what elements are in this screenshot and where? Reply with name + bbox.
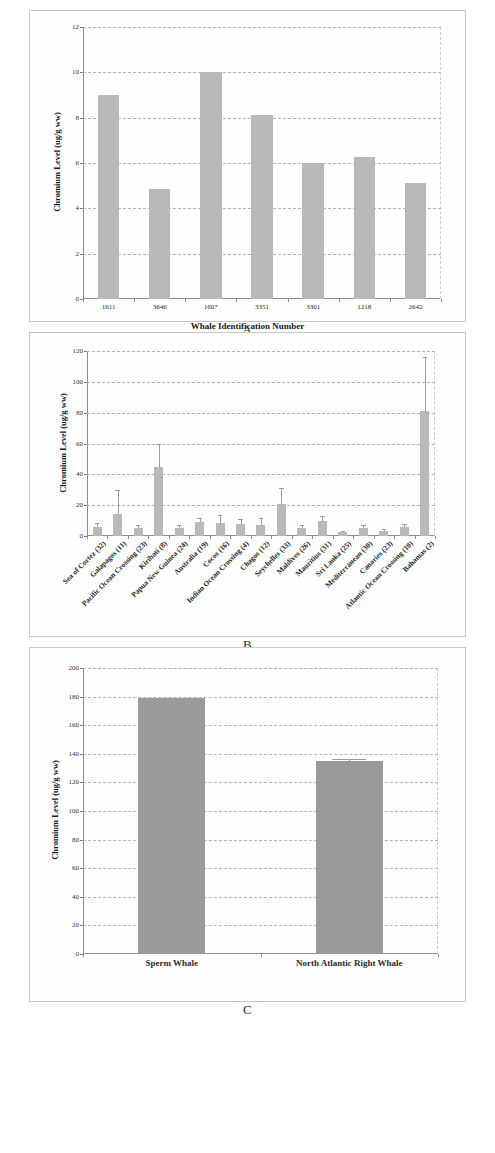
panel-c-gridline bbox=[83, 868, 438, 869]
panel-c-gridline bbox=[83, 782, 438, 783]
panel-b-x-tick-mark bbox=[148, 536, 149, 539]
figure-root: Chromium Level (ug/g ww) 024681012161136… bbox=[0, 0, 495, 1153]
chart-panel-b: Chromium Level (ug/g ww) 020406080100120… bbox=[29, 332, 466, 637]
panel-a-y-tick-mark bbox=[80, 254, 83, 255]
panel-b-y-tick-mark bbox=[84, 444, 87, 445]
panel-b-x-tick-mark bbox=[333, 536, 334, 539]
panel-b-x-tick-mark bbox=[128, 536, 129, 539]
panel-c-y-tick-mark bbox=[80, 668, 83, 669]
panel-a-x-axis-title: Whale Identification Number bbox=[30, 321, 465, 331]
panel-b-gridline bbox=[87, 351, 435, 352]
panel-b-x-tick-mark bbox=[210, 536, 211, 539]
error-bar bbox=[425, 357, 426, 411]
panel-a-x-tick-label: 1611 bbox=[102, 303, 116, 311]
error-bar bbox=[261, 518, 262, 525]
panel-b-x-tick-mark bbox=[230, 536, 231, 539]
panel-b-x-tick-mark bbox=[251, 536, 252, 539]
error-bar-cap bbox=[95, 523, 100, 524]
panel-a-y-tick-mark bbox=[80, 27, 83, 28]
error-bar-cap bbox=[156, 444, 161, 445]
panel-a-x-tick-label: 3646 bbox=[153, 303, 167, 311]
panel-b-x-tick-mark bbox=[87, 536, 88, 539]
panel-a-plot-area: 0246810121611364616073351330112182642 bbox=[83, 27, 441, 299]
panel-c-frame: Chromium Level (ug/g ww) 020406080100120… bbox=[29, 647, 466, 1002]
panel-b-gridline bbox=[87, 444, 435, 445]
panel-b-x-tick-mark bbox=[415, 536, 416, 539]
panel-a-y-tick-mark bbox=[80, 208, 83, 209]
panel-a-x-tick-label: 2642 bbox=[408, 303, 422, 311]
panel-b-gridline bbox=[87, 413, 435, 414]
panel-a-gridline bbox=[83, 72, 441, 73]
panel-b-frame: Chromium Level (ug/g ww) 020406080100120… bbox=[29, 332, 466, 637]
panel-c-gridline bbox=[83, 754, 438, 755]
error-bar-cap bbox=[332, 759, 366, 760]
panel-a-x-tick-label: 1607 bbox=[204, 303, 218, 311]
panel-a-x-tick-mark bbox=[83, 299, 84, 302]
panel-c-y-tick-mark bbox=[80, 811, 83, 812]
panel-c-plot-area: 020406080100120140160180200Sperm WhaleNo… bbox=[83, 668, 438, 954]
error-bar-cap bbox=[300, 525, 305, 526]
panel-a-x-tick-mark bbox=[390, 299, 391, 302]
chart-panel-c: Chromium Level (ug/g ww) 020406080100120… bbox=[29, 647, 466, 1002]
bar bbox=[138, 698, 205, 954]
panel-c-letter: C bbox=[29, 1002, 466, 1018]
panel-c-y-tick-mark bbox=[80, 782, 83, 783]
bar bbox=[93, 527, 102, 536]
panel-c-y-tick-mark bbox=[80, 725, 83, 726]
panel-c-x-tick-label: Sperm Whale bbox=[145, 958, 198, 968]
bar bbox=[236, 524, 245, 536]
error-bar-cap bbox=[136, 525, 141, 526]
bar bbox=[113, 514, 122, 536]
panel-c-y-tick-mark bbox=[80, 897, 83, 898]
panel-c-y-tick-mark bbox=[80, 868, 83, 869]
bar bbox=[175, 528, 184, 536]
bar bbox=[400, 527, 409, 536]
panel-b-x-tick-mark bbox=[189, 536, 190, 539]
panel-b-x-tick-mark bbox=[169, 536, 170, 539]
bar bbox=[277, 504, 286, 536]
panel-c-gridline bbox=[83, 811, 438, 812]
bar bbox=[316, 761, 383, 954]
panel-b-y-tick-mark bbox=[84, 351, 87, 352]
panel-b-x-tick-mark bbox=[353, 536, 354, 539]
panel-b-gridline bbox=[87, 382, 435, 383]
bar bbox=[354, 157, 375, 299]
panel-b-y-tick-mark bbox=[84, 505, 87, 506]
bar bbox=[195, 522, 204, 536]
error-bar bbox=[220, 515, 221, 523]
bar bbox=[379, 531, 388, 536]
bar bbox=[302, 163, 323, 299]
error-bar-cap bbox=[279, 488, 284, 489]
panel-a-y-tick-mark bbox=[80, 118, 83, 119]
error-bar-cap bbox=[238, 519, 243, 520]
panel-a-x-tick-mark bbox=[288, 299, 289, 302]
bar bbox=[420, 411, 429, 536]
error-bar bbox=[159, 444, 160, 467]
error-bar-cap bbox=[259, 518, 264, 519]
panel-b-y-tick-mark bbox=[84, 474, 87, 475]
panel-c-y-tick-mark bbox=[80, 754, 83, 755]
panel-c-y-tick-mark bbox=[80, 925, 83, 926]
panel-c-x-tick-mark bbox=[438, 954, 439, 957]
panel-c-x-tick-mark bbox=[83, 954, 84, 957]
panel-b-x-tick-mark bbox=[435, 536, 436, 539]
panel-a-y-axis-title: Chromium Level (ug/g ww) bbox=[52, 112, 62, 212]
bar bbox=[149, 189, 170, 299]
panel-a-y-tick-mark bbox=[80, 163, 83, 164]
bar bbox=[98, 95, 119, 299]
error-bar-cap bbox=[361, 525, 366, 526]
error-bar-cap bbox=[423, 357, 428, 358]
error-bar-cap bbox=[341, 531, 346, 532]
panel-c-y-tick-mark bbox=[80, 697, 83, 698]
bar bbox=[405, 183, 426, 299]
panel-c-gridline bbox=[83, 725, 438, 726]
panel-b-gridline bbox=[87, 505, 435, 506]
panel-a-gridline bbox=[83, 27, 441, 28]
panel-c-gridline bbox=[83, 897, 438, 898]
panel-c-gridline bbox=[83, 925, 438, 926]
bar bbox=[251, 115, 272, 299]
bar bbox=[200, 72, 221, 299]
panel-b-x-tick-mark bbox=[312, 536, 313, 539]
panel-a-x-tick-label: 1218 bbox=[357, 303, 371, 311]
panel-b-y-tick-mark bbox=[84, 382, 87, 383]
